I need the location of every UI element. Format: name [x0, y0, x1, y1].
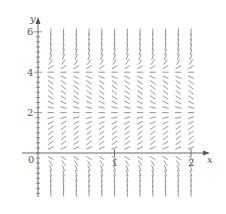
slope-segment	[86, 90, 91, 94]
slope-segment	[150, 156, 155, 159]
slope-segment	[63, 29, 64, 35]
slope-segment	[86, 101, 92, 104]
slope-segment	[111, 117, 117, 119]
slope-segment	[138, 85, 143, 89]
slope-segment	[112, 90, 117, 94]
slope-segment	[163, 76, 169, 79]
y-axis-arrow-icon	[36, 17, 41, 24]
slope-segment	[99, 80, 104, 84]
slope-segment	[114, 29, 115, 35]
slope-segment	[189, 85, 194, 89]
slope-segment	[150, 90, 155, 94]
slope-segment	[86, 117, 92, 119]
slope-segment	[48, 90, 53, 94]
slope-segment	[48, 96, 53, 100]
slope-segment	[74, 80, 79, 84]
slope-segment	[86, 80, 91, 84]
slope-segment	[191, 29, 192, 35]
slope-segment	[48, 147, 54, 150]
slope-segment	[74, 59, 78, 64]
slope-segment	[73, 101, 79, 104]
slope-segment	[164, 160, 168, 165]
slope-segment	[61, 131, 66, 135]
slope-segment	[61, 76, 67, 79]
slope-segment	[48, 117, 54, 119]
slope-segment	[163, 101, 169, 104]
slope-segment	[153, 29, 154, 35]
slope-segment	[162, 107, 168, 109]
slope-segment	[150, 126, 155, 130]
slope-segment	[74, 126, 79, 130]
slope-segment	[73, 76, 79, 79]
slope-segment	[111, 107, 117, 109]
slope-segment	[163, 85, 168, 89]
origin-label: 0	[28, 154, 34, 165]
slope-segment	[150, 96, 155, 100]
slope-segment	[62, 59, 66, 64]
slope-segment	[74, 156, 79, 159]
slope-segment	[176, 85, 181, 89]
slope-segment	[175, 101, 181, 104]
slope-segment	[99, 76, 105, 79]
y-axis-ticks: 246	[27, 26, 42, 193]
slope-segment	[76, 29, 77, 35]
slope-segment	[140, 29, 141, 35]
slope-segment	[112, 126, 117, 130]
slope-segment	[87, 85, 92, 89]
slope-segment	[99, 136, 104, 140]
slope-segment	[74, 85, 79, 89]
slope-segment	[112, 121, 118, 124]
slope-segment	[188, 107, 194, 109]
slope-segment	[48, 121, 54, 124]
slope-segment	[163, 156, 168, 159]
slope-segment	[102, 29, 103, 35]
slope-segment	[188, 65, 193, 68]
slope-segment	[86, 156, 91, 159]
slope-segment	[163, 121, 169, 124]
slope-segment	[151, 59, 155, 64]
slope-segment	[176, 141, 181, 145]
slope-segment	[112, 96, 117, 100]
y-axis-label: y	[29, 13, 36, 24]
slope-segment	[138, 136, 143, 140]
slope-segment	[175, 76, 181, 79]
slope-segment	[150, 131, 155, 135]
slope-segment	[125, 141, 130, 145]
slope-segment	[163, 96, 168, 100]
slope-segment	[61, 147, 67, 150]
slope-segment	[61, 136, 66, 140]
slope-segment	[61, 156, 66, 159]
slope-segment	[163, 90, 168, 94]
slope-segment	[176, 80, 181, 84]
slope-segment	[188, 90, 193, 94]
slope-segment	[175, 121, 181, 124]
slope-segment	[150, 85, 155, 89]
slope-segment	[124, 117, 130, 119]
slope-segment	[124, 147, 130, 150]
slope-segment	[188, 101, 194, 104]
slope-segment	[86, 126, 91, 130]
slope-segment	[112, 76, 118, 79]
slope-segment	[137, 80, 142, 84]
slope-segment	[163, 65, 168, 68]
slope-segment	[176, 59, 180, 64]
slope-segment	[100, 59, 104, 64]
slope-segment	[49, 160, 53, 165]
slope-segment	[60, 117, 66, 119]
slope-segment	[189, 59, 193, 64]
slope-segment	[61, 101, 67, 104]
x-tick-label: 2	[188, 157, 194, 168]
slope-segment	[99, 147, 105, 150]
slope-segment	[74, 90, 79, 94]
slope-segment	[61, 85, 66, 89]
slope-segment	[125, 126, 130, 130]
slope-segment	[99, 107, 105, 109]
slope-segment	[86, 121, 92, 124]
slope-segment	[125, 85, 130, 89]
slope-segment	[164, 59, 168, 64]
slope-segment	[112, 147, 118, 150]
slope-segment	[99, 101, 105, 104]
slope-segment	[87, 136, 92, 140]
slope-segment	[137, 156, 142, 159]
y-tick-label: 2	[27, 107, 33, 118]
